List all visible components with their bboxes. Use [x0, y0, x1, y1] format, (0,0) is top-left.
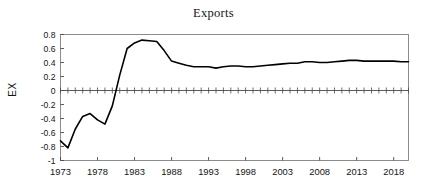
y-tick-label: 0.6: [44, 44, 56, 54]
x-tick-label: 2018: [383, 166, 404, 177]
y-tick-label: -0.6: [41, 128, 56, 138]
y-tick-label: 0.2: [44, 72, 56, 82]
y-tick-label: 0: [51, 86, 56, 96]
chart-figure: Exports EX 0.80.60.40.20-0.2-0.4-0.6-0.8…: [0, 0, 427, 189]
series-line-ex: [61, 40, 409, 148]
y-tick-label: -0.4: [41, 114, 56, 124]
x-tick-label: 1998: [235, 166, 256, 177]
x-tick-label: 1983: [124, 166, 145, 177]
y-tick-label: 0.8: [44, 30, 56, 40]
plot-frame: [61, 35, 409, 161]
x-tick-label: 1973: [50, 166, 71, 177]
y-tick-label: -1: [48, 156, 56, 166]
y-tick-label: 0.4: [44, 58, 56, 68]
plot-border: [61, 35, 409, 161]
y-tick-label: -0.2: [41, 100, 56, 110]
data-series-line: [61, 40, 409, 148]
x-tick-label: 2013: [346, 166, 367, 177]
x-tick-label: 1988: [161, 166, 182, 177]
plot-area: 0.80.60.40.20-0.2-0.4-0.6-0.8-1 19731978…: [0, 0, 427, 189]
x-tick-label: 1978: [87, 166, 108, 177]
y-tick-label: -0.8: [41, 142, 56, 152]
x-axis-ticks: 1973197819831988199319982003200820132018: [50, 157, 404, 177]
x-tick-label: 2008: [309, 166, 330, 177]
x-tick-label: 2003: [272, 166, 293, 177]
x-tick-label: 1993: [198, 166, 219, 177]
zero-axis-line: [61, 88, 409, 94]
